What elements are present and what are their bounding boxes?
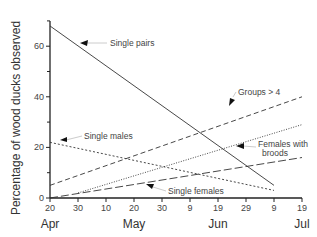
annotation-arrows: [60, 40, 256, 191]
arrow-icon: [60, 137, 67, 142]
y-tick-label: 40: [34, 92, 44, 102]
annotation-single-females: Single females: [168, 186, 224, 196]
month-label: Jun: [208, 217, 227, 231]
data-lines: [50, 26, 302, 198]
annotation-single-males: Single males: [84, 131, 133, 141]
x-tick-label: 9: [271, 203, 276, 213]
month-label: May: [123, 217, 146, 231]
arrow-icon: [236, 143, 244, 149]
x-tick-label: 19: [213, 203, 223, 213]
annotation-groups: Groups > 4: [238, 87, 281, 97]
y-axis-label: Percentage of wood ducks observed: [9, 21, 23, 215]
arrow-icon: [146, 184, 154, 189]
annotations: Single pairs Groups > 4 Single males Fem…: [84, 38, 308, 196]
annotation-females-broods-2: broods: [262, 148, 288, 158]
y-tick-label: 20: [34, 142, 44, 152]
arrow-icon: [80, 40, 88, 46]
x-tick-label: 20: [45, 203, 55, 213]
x-tick-label: 29: [241, 203, 251, 213]
x-tick-label: 20: [129, 203, 139, 213]
arrow-icon: [229, 98, 235, 106]
line-chart: Percentage of wood ducks observed 020406…: [0, 0, 317, 237]
x-tick-label: 30: [157, 203, 167, 213]
annotation-single-pairs: Single pairs: [110, 38, 154, 48]
series-line-single-pairs: [50, 26, 274, 185]
y-tick-label: 0: [39, 193, 44, 203]
series-line-single-males: [50, 142, 274, 190]
x-tick-label: 9: [187, 203, 192, 213]
x-tick-label: 30: [73, 203, 83, 213]
x-tick-label: 10: [101, 203, 111, 213]
month-label: Apr: [41, 217, 60, 231]
month-label: Jul: [294, 217, 309, 231]
x-tick-label: 19: [297, 203, 307, 213]
y-tick-label: 60: [34, 41, 44, 51]
axes: 0204060203010203091929919AprMayJunJul: [34, 21, 310, 231]
